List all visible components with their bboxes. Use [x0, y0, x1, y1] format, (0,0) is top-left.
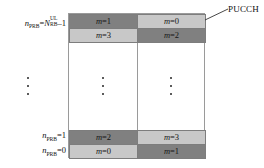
cell-top1-right: m=0 — [137, 14, 206, 29]
cell-bottom1-left: m=0 — [69, 144, 138, 159]
cell-value: 0 — [175, 17, 179, 26]
vertical-ellipsis-axis — [25, 77, 31, 95]
pucch-prb-diagram: nPRB=NULRB–1 nPRB=1 nPRB=0 m=1 m=0 m=3 m… — [0, 0, 264, 168]
cell-top2-right: m=2 — [137, 28, 206, 43]
cell-value: 0 — [107, 147, 111, 156]
cell-bottom1-right: m=1 — [137, 144, 206, 159]
cell-bottom2-left: m=2 — [69, 130, 138, 145]
cell-top2-left: m=3 — [69, 28, 138, 43]
vertical-ellipsis-left-column — [100, 77, 106, 95]
axis-label-prb-0: nPRB=0 — [4, 146, 66, 157]
prb-grid: m=1 m=0 m=3 m=2 m=2 m=3 m=0 m= — [68, 13, 205, 158]
cell-value: 3 — [175, 133, 179, 142]
cell-value: 2 — [175, 31, 179, 40]
axis-label-top-prb: nPRB=NULRB–1 — [4, 16, 66, 30]
cell-value: 2 — [107, 133, 111, 142]
vertical-ellipsis-right-column — [168, 77, 174, 95]
cell-value: 1 — [107, 17, 111, 26]
pucch-callout-label: PUCCH — [228, 4, 259, 14]
axis-label-prb-1: nPRB=1 — [4, 131, 66, 142]
cell-bottom2-right: m=3 — [137, 130, 206, 145]
cell-value: 1 — [175, 147, 179, 156]
cell-top1-left: m=1 — [69, 14, 138, 29]
cell-value: 3 — [107, 31, 111, 40]
